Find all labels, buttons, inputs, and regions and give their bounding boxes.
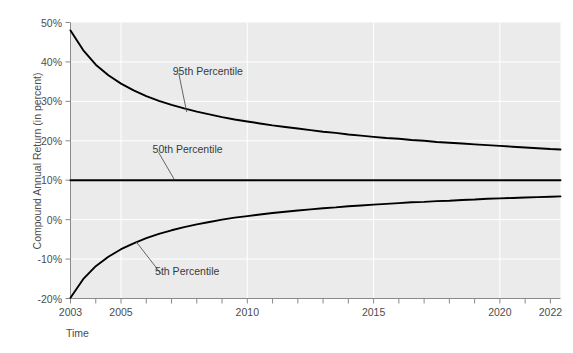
x-tick-label: 2015 — [362, 306, 385, 318]
x-tick-label: 2020 — [488, 306, 511, 318]
y-tick-label: 50% — [22, 18, 62, 28]
percentile-line-chart — [0, 0, 573, 353]
plot-background — [71, 23, 561, 299]
x-tick-label: 2003 — [59, 306, 82, 318]
x-tick-label: 2022 — [539, 306, 562, 318]
y-tick-label: -20% — [22, 294, 62, 304]
x-axis-title: Time — [66, 327, 89, 339]
series-annotation-label: 5th Percentile — [155, 265, 219, 277]
series-annotation-label: 95th Percentile — [173, 65, 243, 77]
x-tick-label: 2010 — [236, 306, 259, 318]
y-axis-title: Compound Annual Return (in percent) — [31, 51, 43, 271]
chart-container: 50%40%30%20%10%0%-10%-20% 20032005201020… — [0, 0, 573, 353]
series-annotation-label: 50th Percentile — [153, 143, 223, 155]
x-tick-label: 2005 — [109, 306, 132, 318]
